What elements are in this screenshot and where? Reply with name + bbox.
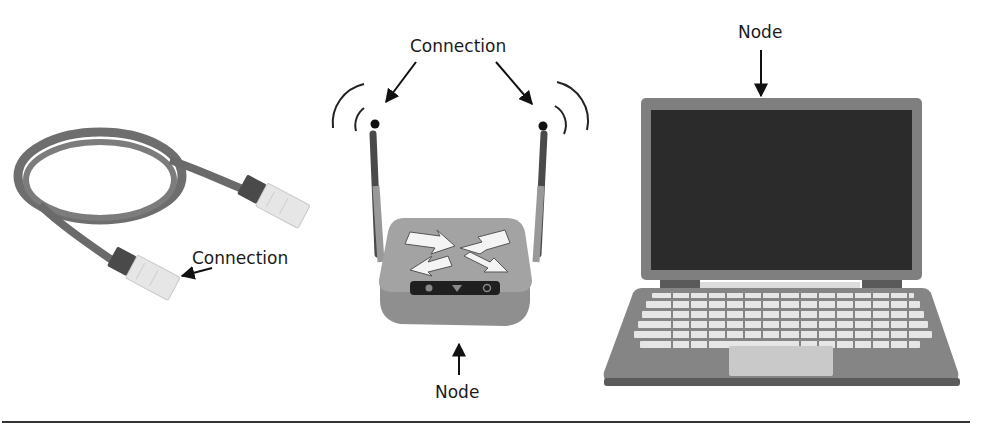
antenna-left-dot xyxy=(371,120,380,129)
wireless-router-illustration xyxy=(333,62,588,375)
router-node-label: Node xyxy=(435,382,479,402)
laptop-node-label: Node xyxy=(738,22,782,42)
cable-connection-arrow xyxy=(182,268,212,276)
laptop-screen xyxy=(651,110,912,270)
ethernet-cable-illustration xyxy=(18,132,310,300)
router-connection-arrow-right xyxy=(496,62,532,104)
globe-icon xyxy=(426,285,433,292)
network-diagram xyxy=(0,0,983,433)
signal-wave-icon xyxy=(555,106,566,134)
cable-connection-label: Connection xyxy=(192,248,288,268)
bottom-divider xyxy=(2,421,970,423)
antenna-right-dot xyxy=(539,122,548,131)
laptop-illustration xyxy=(604,50,960,386)
router-connection-arrow-left xyxy=(386,62,416,102)
signal-wave-icon xyxy=(557,82,588,130)
router-connection-label: Connection xyxy=(410,36,506,56)
signal-wave-icon xyxy=(333,84,364,128)
signal-wave-icon xyxy=(355,108,364,131)
laptop-trackpad xyxy=(729,346,833,376)
